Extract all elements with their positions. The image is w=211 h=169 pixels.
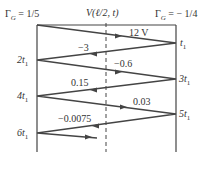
time-label-2t1: 2t1 — [17, 55, 28, 69]
wave-value-3: −0.6 — [114, 59, 132, 69]
wave-value-2: −3 — [78, 43, 89, 53]
left-reflection-coefficient: ΓG = 1/5 — [5, 9, 39, 23]
time-label-6t1: 6t1 — [17, 128, 28, 142]
time-label-5t1: 5t1 — [179, 109, 190, 123]
wave-value-6: −0.0075 — [58, 114, 91, 124]
wave-value-4: 0.15 — [71, 78, 89, 88]
wave-value-5: 0.03 — [133, 97, 151, 107]
wave-value-1: 12 V — [129, 28, 149, 38]
time-label-3t1: 3t1 — [179, 74, 190, 88]
time-label-t1: t1 — [180, 38, 186, 52]
midpoint-voltage-label: V(ℓ/2, t) — [86, 8, 119, 18]
time-label-4t1: 4t1 — [17, 91, 28, 105]
right-reflection-coefficient: ΓG = − 1/4 — [155, 9, 197, 23]
